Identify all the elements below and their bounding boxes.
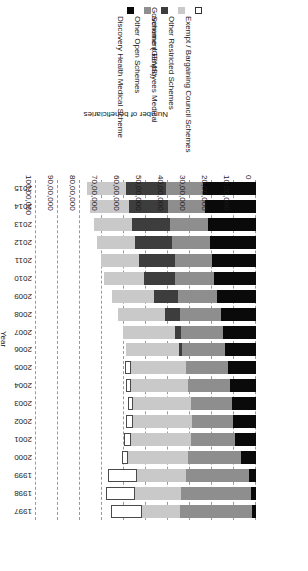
year-tick-2007: 2007: [14, 326, 32, 339]
bar-segment: [180, 308, 221, 321]
legend-swatch-icon: [144, 7, 151, 14]
year-tick-2005: 2005: [14, 361, 32, 374]
bar-segment: [94, 218, 132, 231]
value-tick-5: 50,00,000: [134, 175, 143, 211]
bar-segment: [188, 451, 241, 464]
bar-segment: [144, 272, 176, 285]
year-tick-2011: 2011: [15, 254, 32, 267]
legend-swatch-icon: [195, 7, 202, 14]
year-tick-1999: 1999: [14, 469, 32, 482]
bar-segment: [132, 218, 171, 231]
bar-segment: [181, 326, 223, 339]
year-tick-2010: 2010: [14, 272, 32, 285]
bar-segment: [126, 344, 180, 357]
bar-segment: [137, 469, 185, 482]
bar-segment: [131, 361, 186, 374]
bar-segment: [128, 451, 187, 464]
bar-segment: [139, 254, 174, 267]
bar-segment: [192, 415, 233, 428]
bar-segment: [108, 469, 138, 482]
year-tick-2003: 2003: [14, 397, 32, 410]
bar-segment: [251, 487, 256, 500]
bar-1999: [108, 469, 256, 482]
legend-label: Scheme (GEMS): [150, 16, 159, 76]
bar-2011: [101, 254, 256, 267]
bar-segment: [122, 451, 128, 464]
value-tick-2: 20,00,000: [200, 175, 209, 211]
bar-segment: [223, 326, 256, 339]
bar-segment: [132, 379, 188, 392]
bar-segment: [186, 469, 249, 482]
bar-segment: [252, 505, 256, 518]
year-tick-2013: 2013: [14, 218, 32, 231]
bar-segment: [191, 433, 235, 446]
bar-segment: [178, 290, 218, 303]
bar-segment: [218, 290, 257, 303]
bar-segment: [134, 397, 192, 410]
bar-1998: [106, 487, 256, 500]
bar-segment: [124, 433, 130, 446]
year-tick-2008: 2008: [14, 308, 32, 321]
bar-segment: [212, 254, 256, 267]
bar-segment: [118, 308, 165, 321]
bar-segment: [249, 469, 256, 482]
bar-segment: [182, 344, 225, 357]
legend-label: Discovery Health Medical Scheme: [116, 16, 125, 138]
value-tick-8: 80,00,000: [68, 175, 77, 211]
year-tick-2012: 2012: [14, 236, 32, 249]
bar-segment: [154, 290, 178, 303]
bar-segment: [111, 505, 142, 518]
bar-segment: [135, 487, 180, 500]
year-tick-2000: 2000: [14, 451, 32, 464]
legend-swatch-icon: [178, 7, 185, 14]
legend-label: Exempt / Bargaining Council Schemes: [184, 16, 193, 153]
year-tick-2001: 2001: [14, 433, 32, 446]
bar-segment: [230, 379, 256, 392]
y-axis-title: Year: [0, 331, 8, 347]
bar-segment: [221, 308, 256, 321]
bar-segment: [97, 236, 135, 249]
bar-segment: [181, 487, 251, 500]
bar-segment: [172, 236, 209, 249]
bar-segment: [123, 326, 175, 339]
bar-segment: [126, 415, 132, 428]
bar-segment: [133, 415, 192, 428]
legend-swatch-icon: [161, 7, 168, 14]
bar-segment: [175, 326, 181, 339]
bar-segment: [165, 308, 180, 321]
bar-segment: [241, 451, 256, 464]
year-tick-1998: 1998: [14, 487, 32, 500]
value-tick-3: 30,00,000: [178, 175, 187, 211]
value-tick-6: 60,00,000: [112, 175, 121, 211]
year-tick-2004: 2004: [14, 379, 32, 392]
value-tick-10: 100,00,000: [24, 175, 33, 215]
year-tick-2009: 2009: [14, 290, 32, 303]
bar-segment: [186, 361, 229, 374]
legend-label: Other Open Schemes: [133, 16, 142, 93]
bar-1997: [111, 505, 256, 518]
year-tick-2002: 2002: [14, 415, 32, 428]
bar-segment: [101, 254, 140, 267]
bar-2004: [126, 379, 256, 392]
bar-segment: [175, 254, 212, 267]
legend-label: Other Restricted Schemes: [167, 16, 176, 110]
bar-2000: [122, 451, 256, 464]
bar-segment: [229, 361, 257, 374]
legend-swatch-icon: [127, 7, 134, 14]
value-tick-0: 0: [244, 175, 253, 179]
bar-segment: [232, 397, 256, 410]
legend-item-4[interactable]: Discovery Health Medical Scheme: [14, 7, 134, 167]
bar-segment: [104, 272, 144, 285]
bar-segment: [106, 487, 135, 500]
bar-segment: [128, 397, 134, 410]
bar-series-container: [36, 180, 256, 520]
bar-2003: [128, 397, 256, 410]
bar-2006: [126, 344, 256, 357]
bar-segment: [170, 218, 207, 231]
bar-segment: [188, 379, 230, 392]
bar-segment: [233, 415, 256, 428]
bar-segment: [126, 379, 132, 392]
bar-segment: [142, 505, 180, 518]
bar-segment: [175, 272, 214, 285]
bar-segment: [131, 433, 192, 446]
